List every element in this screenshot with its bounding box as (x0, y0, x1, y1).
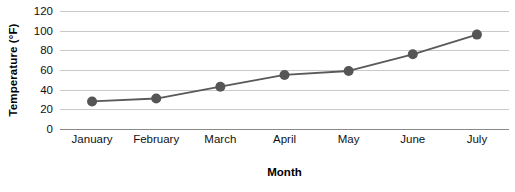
data-point-may (344, 66, 354, 76)
gridline-0 (60, 129, 509, 130)
x-axis-title: Month (60, 166, 509, 178)
data-point-april (280, 70, 290, 80)
x-axis-tick-labels: JanuaryFebruaryMarchAprilMayJuneJuly (60, 133, 509, 153)
x-tick-label-june: June (400, 133, 425, 145)
y-axis-title: Temperature (°F) (0, 0, 26, 140)
y-tick-label-80: 80 (40, 44, 53, 56)
data-point-january (87, 96, 97, 106)
y-axis-title-label: Temperature (°F) (7, 24, 19, 117)
y-tick-label-120: 120 (34, 5, 53, 17)
y-tick-label-0: 0 (47, 123, 53, 135)
y-tick-label-100: 100 (34, 25, 53, 37)
plot-area (60, 11, 509, 129)
x-tick-label-march: March (204, 133, 236, 145)
x-tick-label-july: July (467, 133, 487, 145)
x-tick-label-may: May (338, 133, 360, 145)
y-tick-label-40: 40 (40, 84, 53, 96)
x-tick-label-january: January (72, 133, 113, 145)
x-tick-label-april: April (273, 133, 296, 145)
x-tick-label-february: February (133, 133, 179, 145)
series-line (92, 35, 477, 102)
data-point-june (408, 49, 418, 59)
temperature-line-chart: Temperature (°F) 020406080100120 January… (0, 0, 515, 192)
data-point-july (472, 30, 482, 40)
data-point-february (151, 94, 161, 104)
data-point-march (215, 82, 225, 92)
data-series-temperature (60, 11, 509, 129)
y-axis-tick-labels: 020406080100120 (26, 0, 56, 140)
y-tick-label-20: 20 (40, 103, 53, 115)
y-tick-label-60: 60 (40, 64, 53, 76)
